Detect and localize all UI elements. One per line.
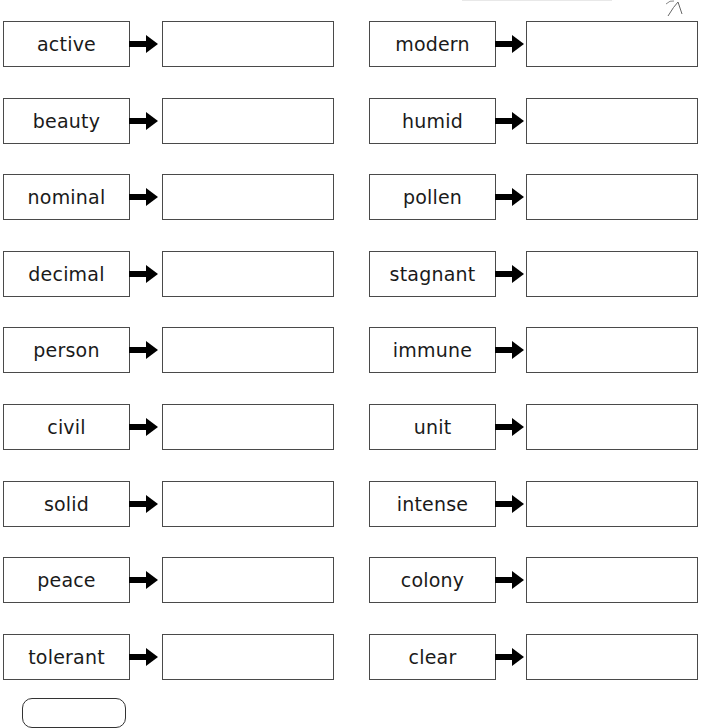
right-row-1: modern (0, 21, 702, 67)
right-arrow-icon (495, 111, 525, 131)
answer-input[interactable] (526, 174, 698, 220)
word-box: clear (369, 634, 496, 680)
right-row-3: pollen (0, 174, 702, 220)
word-box: pollen (369, 174, 496, 220)
right-row-9: clear (0, 634, 702, 680)
word-box: unit (369, 404, 496, 450)
word-box: humid (369, 98, 496, 144)
right-arrow-icon (495, 494, 525, 514)
right-row-7: intense (0, 481, 702, 527)
right-arrow-icon (495, 340, 525, 360)
right-arrow-icon (495, 187, 525, 207)
answer-input[interactable] (526, 557, 698, 603)
right-row-6: unit (0, 404, 702, 450)
word-box: intense (369, 481, 496, 527)
answer-input[interactable] (526, 481, 698, 527)
answer-input[interactable] (526, 404, 698, 450)
right-arrow-icon (495, 264, 525, 284)
word-box: immune (369, 327, 496, 373)
answer-input[interactable] (526, 21, 698, 67)
answer-input[interactable] (526, 634, 698, 680)
faint-top-line (462, 0, 612, 1)
answer-input[interactable] (526, 327, 698, 373)
answer-input[interactable] (526, 251, 698, 297)
right-row-8: colony (0, 557, 702, 603)
right-row-4: stagnant (0, 251, 702, 297)
right-arrow-icon (495, 647, 525, 667)
right-arrow-icon (495, 570, 525, 590)
right-row-2: humid (0, 98, 702, 144)
word-box: stagnant (369, 251, 496, 297)
corner-doodle-icon (664, 0, 702, 18)
footer-label-pill (22, 698, 126, 728)
answer-input[interactable] (526, 98, 698, 144)
word-box: colony (369, 557, 496, 603)
right-row-5: immune (0, 327, 702, 373)
word-box: modern (369, 21, 496, 67)
right-arrow-icon (495, 417, 525, 437)
right-arrow-icon (495, 34, 525, 54)
